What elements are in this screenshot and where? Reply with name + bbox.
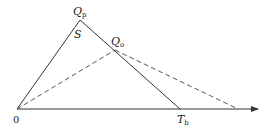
qo-label: Qo (111, 35, 124, 49)
rising-edge-line (17, 20, 80, 109)
origin-label: 0 (13, 114, 19, 125)
qp-label: Qp (73, 5, 87, 19)
dashed-falling-line (115, 50, 238, 109)
tb-label: Tb (177, 113, 189, 127)
s-label: S (74, 28, 82, 41)
diagram-canvas: Qp S Qo 0 Tb (0, 0, 278, 130)
dashed-rising-line (17, 50, 115, 109)
falling-edge-line (80, 20, 180, 109)
